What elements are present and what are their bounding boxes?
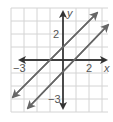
y-tick-2: 2 bbox=[53, 28, 59, 40]
line-y-equals-x-plus-1 bbox=[13, 13, 97, 97]
x-tick-neg3: −3 bbox=[13, 62, 26, 74]
line-y-equals-x-minus-1 bbox=[28, 25, 108, 108]
x-axis-label: x bbox=[103, 62, 110, 74]
coordinate-plane: y x 2 −3 −3 2 bbox=[0, 0, 113, 122]
y-axis-label: y bbox=[66, 7, 74, 19]
x-tick-2: 2 bbox=[86, 62, 92, 74]
y-tick-neg3: −3 bbox=[48, 93, 61, 105]
